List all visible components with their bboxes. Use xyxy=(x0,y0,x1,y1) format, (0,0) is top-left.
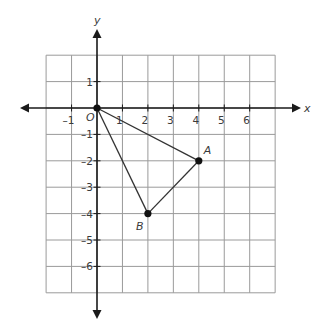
y-axis-up-arrow-icon xyxy=(93,29,102,38)
x-tick-label: 4 xyxy=(192,114,199,126)
x-axis-label: x xyxy=(303,102,311,115)
axes: x y O xyxy=(20,14,311,319)
x-tick-label: 6 xyxy=(243,114,250,126)
x-axis-right-arrow-icon xyxy=(292,104,301,113)
x-tick-label: –1 xyxy=(63,114,75,126)
x-axis-left-arrow-icon xyxy=(20,104,29,113)
y-tick-label: –4 xyxy=(81,208,93,220)
origin-label: O xyxy=(86,111,95,124)
point-O xyxy=(93,104,100,111)
x-tick-label: 5 xyxy=(218,114,225,126)
y-tick-label: –1 xyxy=(81,128,93,140)
y-axis-label: y xyxy=(93,14,101,27)
ticks: –11234561–1–2–3–4–5–6 xyxy=(63,76,251,273)
y-tick-label: –5 xyxy=(81,234,93,246)
grid xyxy=(46,55,275,293)
y-tick-label: –3 xyxy=(81,181,93,193)
y-tick-label: –2 xyxy=(81,155,93,167)
coordinate-plane: x y O –11234561–1–2–3–4–5–6 AB xyxy=(0,0,321,333)
point-label-B: B xyxy=(136,220,144,233)
x-tick-label: 3 xyxy=(167,114,174,126)
y-axis-down-arrow-icon xyxy=(93,310,102,319)
x-tick-label: 2 xyxy=(142,114,149,126)
point-label-A: A xyxy=(203,144,212,157)
y-tick-label: 1 xyxy=(86,76,93,88)
y-tick-label: –6 xyxy=(81,260,93,272)
point-B xyxy=(144,210,151,217)
point-A xyxy=(195,157,202,164)
